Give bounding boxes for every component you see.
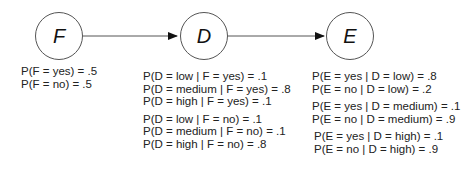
node-d: D — [180, 12, 228, 60]
cpt-e: P(E = yes | D = low) = .8 P(E = no | D =… — [312, 70, 460, 155]
cpt-d: P(D = low | F = yes) = .1 P(D = medium |… — [143, 70, 291, 150]
node-f: F — [35, 12, 83, 60]
cpt-line: P(E = yes | D = medium) = .1 — [312, 100, 460, 113]
cpt-line: P(E = yes | D = low) = .8 — [312, 70, 460, 83]
cpt-line: P(D = low | F = yes) = .1 — [143, 70, 291, 83]
cpt-f: P(F = yes) = .5 P(F = no) = .5 — [21, 65, 97, 90]
cpt-line: P(D = low | F = no) = .1 — [143, 113, 291, 126]
cpt-line: P(E = no | D = high) = .9 — [312, 143, 460, 156]
node-e: E — [326, 12, 374, 60]
cpt-line: P(D = medium | F = no) = .1 — [143, 125, 291, 138]
node-e-label: E — [343, 25, 356, 48]
cpt-line: P(E = no | D = medium) = .9 — [312, 113, 460, 126]
cpt-line: P(D = high | F = no) = .8 — [143, 138, 291, 151]
cpt-line: P(D = high | F = yes) = .1 — [143, 95, 291, 108]
node-f-label: F — [53, 25, 65, 48]
cpt-line: P(F = yes) = .5 — [21, 65, 97, 78]
cpt-line: P(E = yes | D = high) = .1 — [312, 130, 460, 143]
node-d-label: D — [197, 25, 211, 48]
cpt-line: P(E = no | D = low) = .2 — [312, 83, 460, 96]
cpt-line: P(D = medium | F = yes) = .8 — [143, 83, 291, 96]
cpt-line: P(F = no) = .5 — [21, 78, 97, 91]
